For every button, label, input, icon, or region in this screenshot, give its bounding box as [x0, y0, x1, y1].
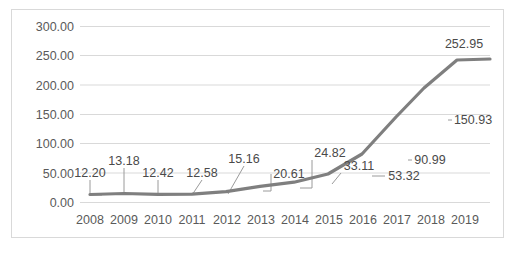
- y-tick-label: 0.00: [50, 196, 74, 210]
- x-tick-label-2012: 2012: [213, 213, 241, 227]
- x-tick-label-2008: 2008: [76, 213, 104, 227]
- data-label-2011: 12.58: [186, 166, 217, 180]
- data-label-2017: 90.99: [414, 153, 445, 167]
- data-label-2008: 12.20: [74, 166, 105, 180]
- data-label-2014: 24.82: [314, 146, 345, 160]
- x-tick-label-2010: 2010: [144, 213, 172, 227]
- x-tick-label-2018: 2018: [417, 213, 445, 227]
- x-tick-label-2019: 2019: [451, 213, 479, 227]
- chart-container: 300.00 250.00 200.00 150.00 100.00 50.00…: [11, 9, 504, 238]
- data-labels: 12.20 13.18 12.42 12.58 15.16 20.61 24.8…: [74, 37, 492, 183]
- x-tick-label-2013: 2013: [247, 213, 275, 227]
- x-tick-label-2016: 2016: [349, 213, 377, 227]
- data-label-2013: 20.61: [273, 167, 304, 181]
- y-axis-tick-labels: 300.00 250.00 200.00 150.00 100.00 50.00…: [36, 20, 74, 210]
- x-tick-label-2011: 2011: [179, 213, 206, 227]
- data-label-2010: 12.42: [142, 166, 173, 180]
- y-tick-label: 300.00: [36, 20, 74, 34]
- y-tick-label: 100.00: [36, 137, 74, 151]
- x-axis-tick-labels: 2008 2009 2010 2011 2012 2013 2014 2015 …: [76, 213, 479, 227]
- x-tick-label-2009: 2009: [110, 213, 138, 227]
- y-tick-label: 50.00: [43, 167, 74, 181]
- y-tick-label: 150.00: [36, 108, 74, 122]
- x-tick-label-2017: 2017: [383, 213, 411, 227]
- data-label-2012: 15.16: [228, 152, 259, 166]
- line-chart-plot: 300.00 250.00 200.00 150.00 100.00 50.00…: [12, 10, 505, 239]
- leader-2013: [263, 174, 271, 191]
- data-label-2015: 33.11: [344, 159, 374, 173]
- leader-2015: [332, 173, 341, 184]
- data-label-2018: 150.93: [454, 113, 492, 127]
- x-tick-label-2014: 2014: [281, 213, 309, 227]
- y-tick-label: 200.00: [36, 79, 74, 93]
- data-label-2009: 13.18: [108, 154, 139, 168]
- y-tick-label: 250.00: [36, 49, 74, 63]
- data-label-2016: 53.32: [388, 169, 419, 183]
- x-tick-label-2015: 2015: [315, 213, 343, 227]
- data-label-2019: 252.95: [445, 37, 483, 51]
